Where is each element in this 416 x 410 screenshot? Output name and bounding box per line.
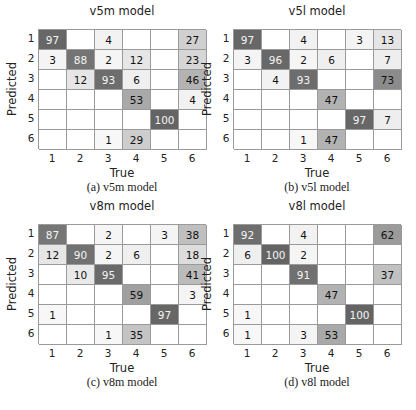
matrix-grid: 97427388212231293646534100129 bbox=[38, 29, 206, 149]
matrix-cell: 4 bbox=[290, 30, 318, 50]
matrix-cell bbox=[67, 225, 95, 245]
panel-title: v8m model bbox=[38, 199, 206, 213]
matrix-cell bbox=[123, 225, 151, 245]
x-tick-label: 3 bbox=[94, 152, 122, 164]
matrix-cell bbox=[262, 225, 290, 245]
matrix-cell: 3 bbox=[234, 50, 262, 70]
y-tick-label: 4 bbox=[221, 287, 231, 299]
matrix-cell: 6 bbox=[123, 70, 151, 90]
y-tick-label: 5 bbox=[26, 307, 36, 319]
matrix-cell: 47 bbox=[318, 90, 346, 110]
matrix-cell: 13 bbox=[374, 30, 402, 50]
matrix-cell bbox=[262, 305, 290, 325]
matrix-cell bbox=[234, 90, 262, 110]
x-tick-label: 5 bbox=[150, 347, 178, 359]
matrix-cell: 59 bbox=[123, 285, 151, 305]
matrix-cell: 2 bbox=[290, 245, 318, 265]
matrix-cell bbox=[262, 325, 290, 345]
matrix-cell bbox=[123, 265, 151, 285]
x-axis-title: True bbox=[38, 361, 206, 375]
matrix-cell: 97 bbox=[346, 110, 374, 130]
matrix-cell: 6 bbox=[234, 245, 262, 265]
matrix-cell bbox=[67, 325, 95, 345]
matrix-cell: 4 bbox=[95, 30, 123, 50]
x-axis-title: True bbox=[233, 166, 401, 180]
matrix-cell bbox=[151, 325, 179, 345]
y-axis-title: Predicted bbox=[200, 254, 214, 314]
matrix-cell bbox=[346, 225, 374, 245]
matrix-cell bbox=[95, 285, 123, 305]
matrix-cell bbox=[374, 245, 402, 265]
matrix-cell bbox=[234, 70, 262, 90]
matrix-cell: 4 bbox=[262, 70, 290, 90]
matrix-cell bbox=[374, 90, 402, 110]
matrix-cell bbox=[234, 285, 262, 305]
matrix-cell bbox=[123, 305, 151, 325]
matrix-cell: 2 bbox=[95, 225, 123, 245]
matrix-cell: 3 bbox=[290, 325, 318, 345]
y-tick-label: 2 bbox=[26, 52, 36, 64]
matrix-cell bbox=[318, 305, 346, 325]
matrix-cell bbox=[346, 285, 374, 305]
matrix-cell bbox=[151, 90, 179, 110]
panel-title: v5l model bbox=[233, 4, 401, 18]
y-axis-title: Predicted bbox=[200, 59, 214, 119]
y-tick-label: 3 bbox=[26, 267, 36, 279]
matrix-cell: 2 bbox=[95, 245, 123, 265]
x-tick-label: 4 bbox=[122, 347, 150, 359]
matrix-cell bbox=[39, 265, 67, 285]
matrix-cell bbox=[95, 305, 123, 325]
matrix-cell bbox=[151, 130, 179, 150]
matrix-cell bbox=[151, 285, 179, 305]
matrix-cell bbox=[346, 130, 374, 150]
x-tick-label: 4 bbox=[317, 152, 345, 164]
matrix-cell: 47 bbox=[318, 285, 346, 305]
y-tick-label: 1 bbox=[221, 227, 231, 239]
matrix-cell: 62 bbox=[374, 225, 402, 245]
matrix-cell bbox=[234, 110, 262, 130]
matrix-cell: 1 bbox=[95, 325, 123, 345]
matrix-cell bbox=[290, 90, 318, 110]
matrix-cell bbox=[346, 245, 374, 265]
matrix-cell bbox=[151, 70, 179, 90]
y-tick-label: 2 bbox=[26, 247, 36, 259]
x-tick-label: 2 bbox=[66, 347, 94, 359]
matrix-cell bbox=[151, 265, 179, 285]
matrix-cell: 3 bbox=[39, 50, 67, 70]
matrix-cell bbox=[67, 130, 95, 150]
matrix-cell: 2 bbox=[95, 50, 123, 70]
matrix-cell: 91 bbox=[290, 265, 318, 285]
matrix-cell bbox=[346, 70, 374, 90]
matrix-cell: 6 bbox=[318, 50, 346, 70]
y-tick-label: 2 bbox=[221, 52, 231, 64]
matrix-cell bbox=[346, 90, 374, 110]
y-tick-label: 6 bbox=[221, 327, 231, 339]
panel-caption: (c) v8m model bbox=[38, 375, 206, 390]
matrix-cell: 100 bbox=[151, 110, 179, 130]
panel-caption: (d) v8l model bbox=[233, 375, 401, 390]
matrix-cell bbox=[39, 110, 67, 130]
y-tick-label: 3 bbox=[221, 267, 231, 279]
matrix-cell: 88 bbox=[67, 50, 95, 70]
panel-caption: (b) v5l model bbox=[233, 180, 401, 195]
y-tick-label: 1 bbox=[26, 227, 36, 239]
y-tick-label: 3 bbox=[26, 72, 36, 84]
x-tick-label: 1 bbox=[38, 152, 66, 164]
matrix-cell bbox=[346, 265, 374, 285]
y-tick-label: 1 bbox=[26, 32, 36, 44]
matrix-cell bbox=[318, 225, 346, 245]
matrix-cell bbox=[318, 30, 346, 50]
matrix-grid: 9743133962674937347977147 bbox=[233, 29, 401, 149]
matrix-cell bbox=[67, 30, 95, 50]
matrix-cell: 12 bbox=[67, 70, 95, 90]
matrix-cell bbox=[318, 70, 346, 90]
matrix-cell bbox=[39, 325, 67, 345]
x-tick-label: 1 bbox=[233, 152, 261, 164]
panel-v8l: v8l model Predicted 92462610029137471100… bbox=[195, 195, 403, 385]
y-axis-title: Predicted bbox=[5, 59, 19, 119]
matrix-cell bbox=[374, 305, 402, 325]
matrix-cell bbox=[123, 30, 151, 50]
matrix-cell bbox=[374, 130, 402, 150]
matrix-cell bbox=[151, 50, 179, 70]
x-tick-label: 5 bbox=[150, 152, 178, 164]
